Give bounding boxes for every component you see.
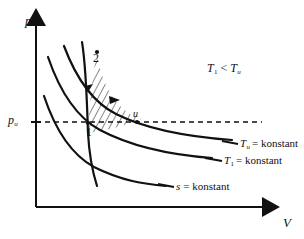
tu-subscript: u (237, 68, 241, 76)
t1-curve-text: = konstant (234, 154, 282, 166)
tu-symbol: T (230, 61, 237, 75)
tu-isotherm-label: Tu= konstant (240, 138, 298, 151)
relation-symbol: < (217, 61, 230, 75)
pressure-axis-label: p (25, 14, 32, 27)
tu-curve-text: = konstant (250, 137, 298, 149)
s-curve-text: = konstant (180, 180, 229, 192)
pu-axis-label: pu (8, 114, 18, 128)
t1-label-leader (205, 158, 222, 161)
tu-label-leader (222, 141, 238, 144)
point-u-marker (135, 120, 139, 124)
isentrope-label: s= konstant (176, 181, 230, 192)
t1-isotherm-curve (48, 57, 212, 158)
t1-symbol: T (207, 61, 214, 75)
point-u-label: u (133, 109, 138, 119)
volume-axis-label: V (283, 216, 291, 229)
pu-subscript: u (14, 120, 18, 128)
t1-isotherm-label: T1= konstant (224, 155, 282, 168)
pv-diagram-figure: p V pu 2 1 u T1<Tu Tu= konstant T1= kons… (0, 0, 304, 239)
temperature-relation-annotation: T1<Tu (207, 62, 241, 76)
diagram-canvas (0, 0, 304, 239)
point-1-label: 1 (86, 126, 92, 138)
point-2-label: 2 (93, 52, 99, 64)
